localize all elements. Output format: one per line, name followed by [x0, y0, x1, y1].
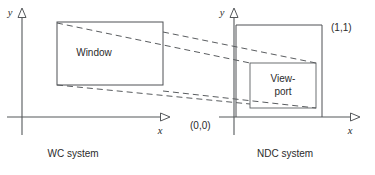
- wc-y-axis-arrowhead-icon: [18, 8, 26, 18]
- ndc-y-axis-arrowhead-icon: [230, 8, 238, 18]
- wc-x-axis-arrowhead-icon: [161, 113, 171, 121]
- window-viewport-diagram: y x Window WC system y x (0,0) (1,1) Vie…: [0, 0, 375, 175]
- dashed-line-top-right: [163, 32, 316, 63]
- ndc-x-axis-label: x: [347, 125, 353, 136]
- dashed-line-bottom-left: [57, 85, 250, 104]
- diagram-canvas: y x Window WC system y x (0,0) (1,1) Vie…: [0, 0, 375, 175]
- ndc-corner-label: (1,1): [331, 22, 352, 33]
- wc-system-caption: WC system: [47, 148, 98, 159]
- wc-x-axis-label: x: [157, 125, 163, 136]
- ndc-y-axis-label: y: [219, 7, 225, 18]
- viewport-label-line2: port: [274, 86, 291, 97]
- ndc-unit-square: [236, 25, 322, 117]
- ndc-origin-label: (0,0): [190, 120, 211, 131]
- wc-y-axis-label: y: [7, 7, 13, 18]
- dashed-line-bottom-right: [163, 91, 316, 108]
- wc-system-group: [7, 8, 170, 135]
- viewport-label-line1: View-: [271, 73, 296, 84]
- ndc-x-axis-arrowhead-icon: [351, 113, 361, 121]
- window-label: Window: [76, 47, 112, 58]
- ndc-system-caption: NDC system: [257, 148, 313, 159]
